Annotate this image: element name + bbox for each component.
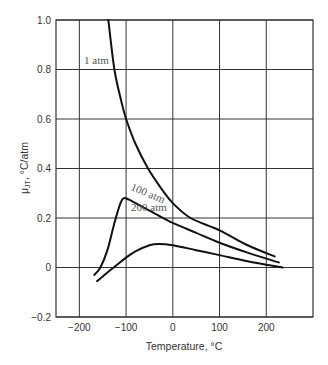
jt-coefficient-chart: −0.200.20.40.60.81.0 −200−1000100200 1 a… <box>0 0 328 365</box>
x-tick-labels: −200−1000100200 <box>68 322 275 333</box>
x-tick-label: 0 <box>170 322 176 333</box>
y-tick-label: 0.6 <box>37 114 51 125</box>
y-tick-label: 0 <box>45 262 51 273</box>
curve-200-atm <box>97 244 283 281</box>
y-axis-label: μJT, °C/atm <box>18 142 31 194</box>
x-tick-label: 100 <box>211 322 228 333</box>
y-tick-label: 0.2 <box>37 213 51 224</box>
curves <box>94 20 282 281</box>
y-tick-label: −0.2 <box>31 312 51 323</box>
y-tick-label: 0.4 <box>37 163 51 174</box>
x-axis-label: Temperature, °C <box>146 340 223 352</box>
y-tick-labels: −0.200.20.40.60.81.0 <box>31 15 51 323</box>
y-tick-label: 0.8 <box>37 64 51 75</box>
x-tick-label: −200 <box>68 322 91 333</box>
curve-1-atm <box>108 20 274 256</box>
curve-100-atm <box>94 198 279 275</box>
x-tick-label: 200 <box>258 322 275 333</box>
x-tick-label: −100 <box>115 322 138 333</box>
curve-label-200atm: 200 atm <box>131 201 167 213</box>
y-tick-label: 1.0 <box>37 15 51 26</box>
curve-label-1atm: 1 atm <box>84 54 109 66</box>
